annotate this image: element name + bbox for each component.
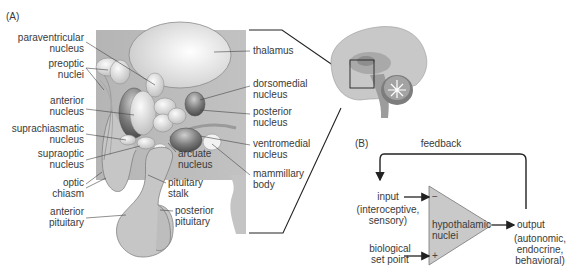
- plus-sign: +: [432, 250, 438, 261]
- label-preoptic: preopticnuclei: [48, 58, 84, 80]
- brain-sagittal-thumbnail: [331, 27, 427, 118]
- hypothalamus-section-drawing: [96, 22, 246, 257]
- label-arcuate: arcuatenucleus: [178, 148, 212, 170]
- label-paraventricular: paraventricularnucleus: [18, 32, 85, 54]
- panel-b-control-diagram: (B) feedback − + hypothalamicnuclei inpu…: [355, 138, 566, 266]
- minus-sign: −: [432, 191, 438, 202]
- hypothalamus-figure: (A): [0, 0, 569, 276]
- output-label: output: [517, 219, 545, 230]
- label-optic-chiasm: opticchiasm: [52, 177, 84, 199]
- output-detail: (autonomic,endocrine,behavioral): [514, 233, 566, 266]
- left-labels: paraventricularnucleus preopticnuclei an…: [12, 32, 85, 228]
- input-label: input(interoceptive,sensory): [357, 191, 420, 226]
- panel-a-label: (A): [6, 11, 19, 22]
- label-anterior-pituitary: anteriorpituitary: [49, 206, 85, 228]
- label-posterior-pituitary: posteriorpituitary: [175, 205, 215, 227]
- label-suprachiasmatic: suprachiasmaticnucleus: [12, 123, 84, 145]
- set-point-label: biologicalset point: [369, 243, 411, 265]
- label-mammillary: mammillarybody: [253, 168, 304, 190]
- feedback-label: feedback: [421, 138, 463, 149]
- label-supraoptic: supraopticnucleus: [38, 148, 84, 170]
- label-ventromedial: ventromedialnucleus: [253, 138, 310, 160]
- label-pituitary-stalk: pituitarystalk: [168, 177, 203, 199]
- label-thalamus: thalamus: [253, 45, 294, 56]
- label-anterior-nucleus: anteriornucleus: [50, 95, 85, 117]
- label-dorsomedial: dorsomedialnucleus: [253, 78, 307, 100]
- label-posterior-nucleus: posteriornucleus: [253, 106, 293, 128]
- panel-b-label: (B): [355, 138, 368, 149]
- right-labels: thalamus dorsomedialnucleus posteriornuc…: [253, 45, 310, 190]
